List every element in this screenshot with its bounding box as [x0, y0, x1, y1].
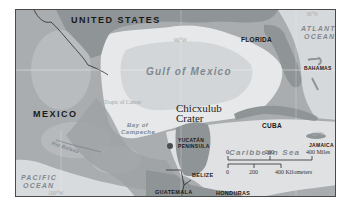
- scale-km-0: 0: [226, 169, 229, 175]
- label-honduras: HONDURAS: [216, 191, 250, 197]
- label-80w: 80°W: [314, 192, 327, 197]
- label-cuba: CUBA: [262, 123, 282, 130]
- label-mexico: MEXICO: [33, 110, 78, 119]
- label-bahamas: BAHAMAS: [304, 66, 332, 71]
- label-peninsula: PENINSULA: [178, 144, 210, 149]
- scale-miles-400: 400 Miles: [306, 149, 330, 155]
- map-frame: UNITED STATES MEXICO CUBA FLORIDA BAHAMA…: [15, 9, 336, 197]
- label-20n: 20°N: [312, 132, 324, 138]
- label-pacific-ocean: OCEAN: [23, 182, 54, 189]
- crater-marker: [167, 143, 173, 149]
- label-jamaica: JAMAICA: [309, 143, 334, 148]
- label-belize: BELIZE: [192, 173, 213, 179]
- label-atlantic: ATLANTIC: [301, 25, 336, 32]
- label-30n: 30°N: [306, 12, 318, 18]
- label-campeche: Campeche: [121, 129, 155, 135]
- scale-km-400: 400 Kilometers: [275, 169, 312, 175]
- label-tropic-of-cancer: Tropic of Cancer: [104, 100, 141, 106]
- label-guatemala: GUATEMALA: [155, 190, 192, 196]
- label-pacific: PACIFIC: [21, 174, 57, 181]
- label-bay-of: Bay of: [127, 122, 148, 128]
- label-florida: FLORIDA: [241, 37, 272, 44]
- label-90w: 90°W: [174, 38, 187, 44]
- label-crater: Crater: [176, 113, 203, 123]
- label-atlantic-ocean: OCEAN: [304, 33, 335, 40]
- label-100w: 100°W: [48, 191, 64, 197]
- label-united-states: UNITED STATES: [71, 16, 161, 25]
- scale-miles-200: 200: [265, 149, 274, 155]
- scale-miles-0: 0: [226, 149, 229, 155]
- scale-km-200: 200: [249, 169, 258, 175]
- label-gulf-of-mexico: Gulf of Mexico: [146, 67, 232, 77]
